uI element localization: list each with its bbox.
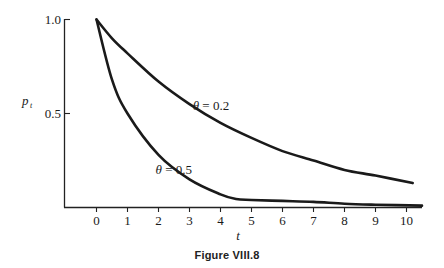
y-axis-label-sub: t: [30, 101, 33, 110]
y-ticks: 0.51.0: [45, 12, 70, 121]
x-tick-label: 4: [217, 213, 224, 228]
annotations: θ = 0.2θ = 0.5: [156, 98, 230, 177]
y-tick-label: 0.5: [45, 106, 61, 121]
x-tick-label: 3: [186, 213, 193, 228]
x-tick-label: 8: [341, 213, 348, 228]
x-tick-label: 10: [400, 213, 413, 228]
series-group: [97, 20, 423, 206]
x-tick-label: 6: [279, 213, 286, 228]
y-axis-label: p t: [21, 93, 33, 110]
annotation-theta-0-5: θ = 0.5: [156, 162, 192, 177]
x-tick-label: 5: [248, 213, 255, 228]
x-tick-label: 7: [310, 213, 317, 228]
line-chart: 0.51.0 012345678910 θ = 0.2θ = 0.5 t p t: [0, 0, 444, 268]
x-ticks: 012345678910: [93, 208, 413, 229]
x-tick-label: 0: [93, 213, 100, 228]
y-axis-label-main: p: [21, 93, 29, 108]
series-line-theta-0-2: [97, 20, 413, 184]
x-tick-label: 9: [372, 213, 379, 228]
x-tick-label: 2: [155, 213, 162, 228]
figure-caption: Figure VIII.8: [0, 249, 444, 261]
y-tick-label: 1.0: [45, 12, 61, 27]
x-tick-label: 1: [124, 213, 131, 228]
figure-caption-text: Figure VIII.8: [195, 249, 260, 261]
x-axis-label: t: [236, 228, 240, 243]
series-line-theta-0-5: [97, 20, 423, 206]
annotation-theta-0-2: θ = 0.2: [193, 98, 229, 113]
